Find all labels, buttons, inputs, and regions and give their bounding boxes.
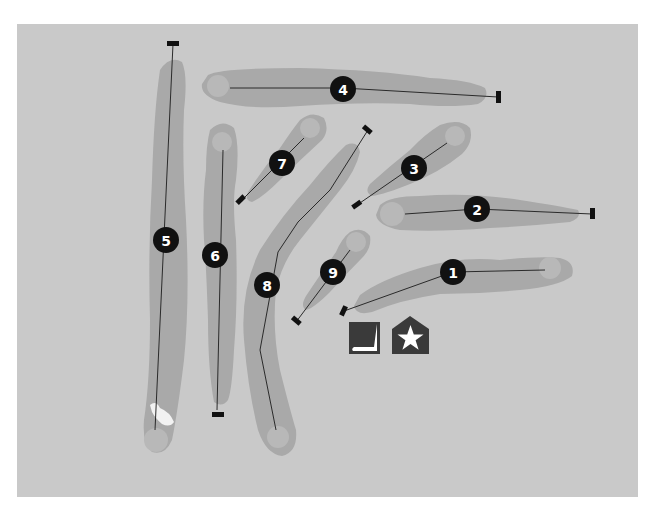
tee-marker-8	[362, 124, 373, 134]
hole-number-5: 5	[161, 233, 171, 249]
tee-marker-2	[590, 208, 595, 219]
hole-5[interactable]: 5	[144, 41, 188, 453]
hole-6[interactable]: 6	[202, 123, 238, 417]
hole-4[interactable]: 4	[202, 68, 501, 107]
tee-marker-7	[235, 194, 246, 205]
hole-number-2: 2	[472, 202, 482, 218]
hole-number-1: 1	[448, 265, 458, 281]
hole-1[interactable]: 1	[339, 257, 573, 316]
tee-marker-3	[351, 200, 362, 210]
hole-number-7: 7	[277, 156, 287, 172]
hole-2[interactable]: 2	[376, 195, 595, 231]
tee-marker-5	[167, 41, 179, 46]
putter-icon[interactable]	[349, 322, 380, 354]
clubhouse-star-icon[interactable]	[392, 316, 429, 354]
tee-marker-6	[212, 412, 224, 417]
hole-number-3: 3	[409, 161, 419, 177]
tee-marker-4	[496, 91, 501, 103]
hole-number-6: 6	[210, 248, 220, 264]
course-map: 5 4 6 7 8	[0, 0, 655, 513]
tee-marker-1	[339, 305, 348, 316]
hole-number-9: 9	[328, 265, 338, 281]
hole-number-4: 4	[338, 82, 348, 98]
hole-number-8: 8	[262, 278, 272, 294]
